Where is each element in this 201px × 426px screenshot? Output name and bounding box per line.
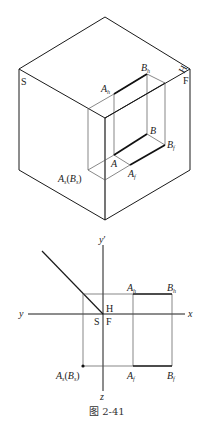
projection-diagram: y′ y x z H S F Ah Bh Af Bf As(Bs) <box>18 234 193 402</box>
plane-label-s: S <box>21 76 27 87</box>
diagonal-45-line <box>42 251 103 314</box>
point-label-af: Af <box>127 168 137 180</box>
proj-label-bf: Bf <box>167 370 176 382</box>
point-label-b: B <box>150 125 156 136</box>
proj-label-bh: Bh <box>167 282 176 294</box>
origin-label-f: F <box>106 316 112 327</box>
figure-caption: 图 2-41 <box>89 406 125 417</box>
plane-label-f: F <box>183 75 189 86</box>
isometric-cube <box>19 17 190 220</box>
segment-AfBf <box>130 145 165 165</box>
plane-label-h: H <box>176 63 189 75</box>
point-as-bs-dot <box>81 364 84 367</box>
segment-AB <box>114 134 147 155</box>
axis-label-y-prime: y′ <box>98 234 106 245</box>
point-label-bh: Bh <box>141 62 150 74</box>
point-label-ah: Ah <box>100 83 110 95</box>
axis-label-x: x <box>187 308 193 319</box>
figure-2-41: S F H Ah Bh B Bf A Af As(Bs) y′ y x <box>0 0 201 426</box>
origin-label-h: H <box>106 303 113 314</box>
point-label-a: A <box>110 158 118 169</box>
cube-edge-left <box>19 69 105 118</box>
proj-label-ah: Ah <box>126 282 136 294</box>
point-label-as-bs: As(Bs) <box>57 173 82 185</box>
axis-label-y: y <box>18 308 24 319</box>
segment-AhBh <box>114 74 147 94</box>
proj-label-as-bs: As(Bs) <box>55 370 80 382</box>
point-label-bf: Bf <box>167 139 176 151</box>
proj-label-af: Af <box>126 370 136 382</box>
origin-label-s: S <box>94 316 100 327</box>
axis-label-z: z <box>99 391 104 402</box>
